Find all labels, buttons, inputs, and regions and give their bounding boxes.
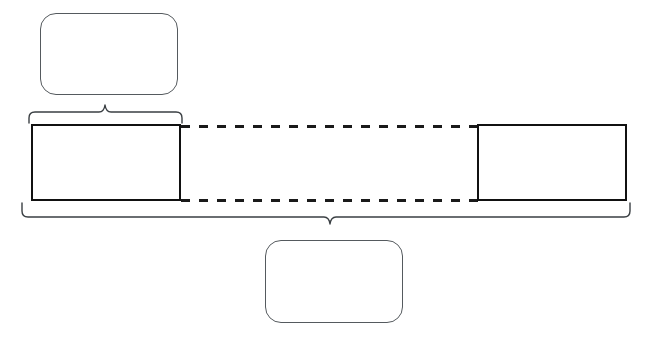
top-callout-box[interactable] (40, 13, 178, 95)
bottom-callout-box[interactable] (265, 240, 403, 323)
top-brace (29, 105, 182, 123)
diagram-canvas (0, 0, 655, 339)
bottom-brace (22, 203, 630, 224)
left-segment-box[interactable] (31, 124, 181, 201)
right-segment-box[interactable] (477, 124, 627, 201)
